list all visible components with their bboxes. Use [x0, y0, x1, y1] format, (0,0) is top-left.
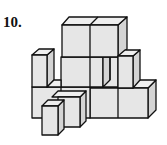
cube-structure-diagram [0, 0, 167, 145]
cube-middle-row [61, 57, 118, 87]
cube-top-pair [62, 17, 127, 57]
block-right-tall [118, 50, 140, 88]
block-left-tall [32, 49, 61, 87]
block-front-left [42, 100, 64, 135]
